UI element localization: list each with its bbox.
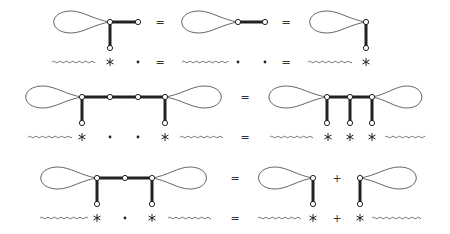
- wavy-line: [28, 136, 72, 138]
- dot-vertex: [137, 61, 140, 64]
- loop: [360, 167, 416, 189]
- loop: [372, 86, 422, 108]
- loop: [165, 86, 221, 108]
- vertex-node: [235, 19, 240, 24]
- equals-sign: =: [281, 56, 290, 69]
- wavy-line: [180, 136, 223, 138]
- feynman-identity-diagram: =======+=+: [0, 0, 450, 234]
- row-1: ====: [52, 11, 369, 69]
- vertex-node: [369, 120, 374, 125]
- equals-sign: =: [230, 172, 239, 185]
- vertex-node: [310, 175, 315, 180]
- equals-sign: =: [230, 212, 239, 225]
- vertex-node: [357, 201, 362, 206]
- vertex-node: [162, 120, 167, 125]
- vertex-node: [135, 94, 140, 99]
- row-3: =+=+: [40, 167, 421, 225]
- loop: [259, 167, 313, 189]
- wavy-line: [372, 217, 421, 219]
- diagram-term: [26, 86, 222, 126]
- loop: [26, 86, 82, 108]
- vertex-node: [162, 94, 167, 99]
- diagram-term: [54, 11, 141, 51]
- diagram-term: [182, 11, 268, 33]
- vertex-node: [324, 120, 329, 125]
- diagram-term: [41, 167, 207, 207]
- loop: [269, 86, 327, 108]
- wavy-line: [168, 217, 211, 219]
- plus-sign: +: [332, 172, 341, 185]
- equals-sign: =: [240, 91, 249, 104]
- loop: [41, 167, 97, 189]
- vertex-node: [149, 201, 154, 206]
- vertex-node: [107, 45, 112, 50]
- wavy-line: [40, 217, 88, 219]
- equals-sign: =: [155, 16, 164, 29]
- wavy-line: [270, 136, 313, 138]
- vertex-node: [107, 19, 112, 24]
- equals-sign: =: [281, 16, 290, 29]
- vertex-node: [347, 120, 352, 125]
- wavy-line: [385, 136, 425, 138]
- vertex-node: [122, 175, 127, 180]
- vertex-node: [347, 94, 352, 99]
- wavy-line: [258, 217, 301, 219]
- vertex-node: [135, 19, 140, 24]
- wavy-line: [308, 61, 352, 63]
- wavy-line: [182, 61, 228, 63]
- vertex-node: [357, 175, 362, 180]
- dot-vertex: [124, 217, 127, 220]
- vertex-node: [94, 175, 99, 180]
- equals-sign: =: [155, 56, 164, 69]
- vertex-node: [79, 94, 84, 99]
- diagram-term: [259, 167, 316, 207]
- wavy-line: [52, 61, 95, 63]
- vertex-node: [94, 201, 99, 206]
- vertex-node: [149, 175, 154, 180]
- vertex-node: [262, 19, 267, 24]
- loop: [54, 11, 110, 33]
- dot-vertex: [237, 61, 240, 64]
- diagram-term: [357, 167, 416, 207]
- vertex-node: [107, 94, 112, 99]
- dot-vertex: [109, 136, 112, 139]
- vertex-node: [363, 19, 368, 24]
- vertex-node: [79, 120, 84, 125]
- loop: [152, 167, 206, 189]
- row-2: ==: [26, 86, 425, 144]
- plus-sign: +: [332, 212, 341, 225]
- equals-sign: =: [240, 131, 249, 144]
- diagram-term: [269, 86, 422, 126]
- dot-vertex: [137, 136, 140, 139]
- diagram-term: [310, 11, 369, 51]
- vertex-node: [369, 94, 374, 99]
- vertex-node: [324, 94, 329, 99]
- loop: [310, 11, 366, 33]
- dot-vertex: [264, 61, 267, 64]
- vertex-node: [363, 45, 368, 50]
- diagram-canvas: =======+=+: [0, 0, 450, 234]
- loop: [182, 11, 238, 33]
- vertex-node: [310, 201, 315, 206]
